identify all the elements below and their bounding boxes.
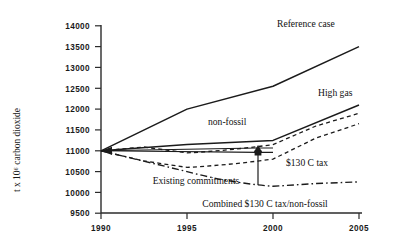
y-tick-label: 10000 [65, 189, 90, 198]
series-reference-case [101, 47, 359, 151]
annotation-combined: Combined $130 C tax/non-fossil [202, 198, 328, 209]
y-tick-label: 11000 [66, 147, 90, 156]
y-tick-label: 13000 [65, 64, 90, 73]
y-tick-label: 14000 [65, 22, 90, 31]
annotation-existing-commitments: Existing commitments [153, 175, 240, 186]
y-axis-title: t x 10⁶ carbon dioxide [12, 108, 22, 192]
y-tick-label: 11500 [66, 126, 90, 135]
y-tick-label: 12500 [65, 85, 90, 94]
annotation-reference-case: Reference case [277, 18, 335, 29]
x-tick-label: 2000 [263, 224, 283, 233]
chart-figure: t x 10⁶ carbon dioxide 14000 13500 13000… [0, 0, 394, 252]
annotation-c-tax: $130 C tax [286, 157, 328, 168]
y-axis-ticks [95, 26, 101, 213]
series-high-gas [101, 105, 359, 151]
x-axis-ticks [101, 213, 359, 219]
y-tick-label: 10500 [65, 168, 90, 177]
x-tick-label: 1990 [91, 224, 111, 233]
y-tick-label: 12000 [65, 105, 90, 114]
y-tick-label: 9500 [70, 209, 90, 218]
existing-commitments-marker-block [255, 150, 262, 155]
y-axis-tick-labels: 14000 13500 13000 12500 12000 11500 1100… [65, 22, 90, 218]
x-axis-tick-labels: 1990 1995 2000 2005 [91, 224, 369, 233]
annotation-non-fossil: non-fossil [208, 116, 247, 127]
series-existing-commitments [101, 151, 273, 153]
y-tick-label: 13500 [65, 43, 90, 52]
x-tick-label: 1995 [177, 224, 197, 233]
x-tick-label: 2005 [349, 224, 369, 233]
chart-svg: t x 10⁶ carbon dioxide 14000 13500 13000… [0, 0, 394, 252]
annotation-high-gas: High gas [318, 87, 353, 98]
